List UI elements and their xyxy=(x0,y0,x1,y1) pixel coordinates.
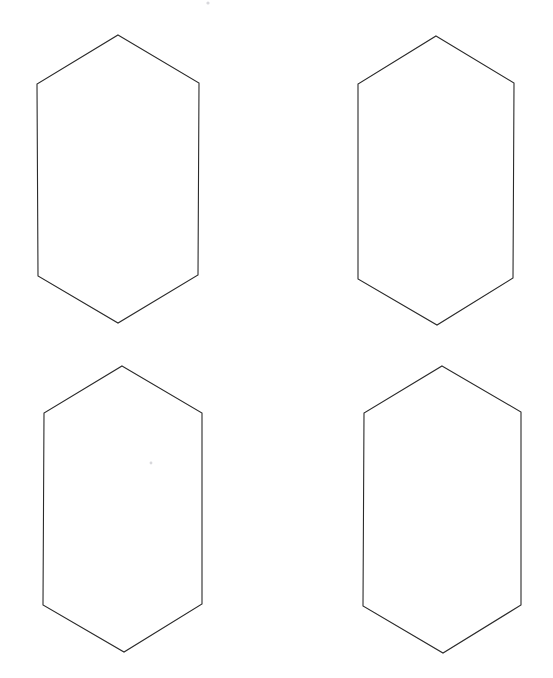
hexagon-bottom-left xyxy=(43,366,202,652)
hexagon-figure xyxy=(0,0,553,678)
hexagon-top-right xyxy=(358,36,514,325)
drawing-canvas xyxy=(0,0,553,678)
scan-speck-top-icon xyxy=(206,1,209,4)
hexagon-bottom-right xyxy=(363,366,521,653)
scan-speck-middle-icon xyxy=(150,462,153,465)
hexagon-top-left xyxy=(37,35,199,323)
